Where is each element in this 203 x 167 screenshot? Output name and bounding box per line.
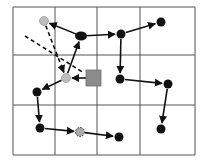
edge-arrow [42, 80, 61, 89]
black-node [157, 18, 166, 27]
edge-arrow [86, 34, 115, 35]
edge-arrow [162, 89, 167, 123]
black-node [116, 75, 125, 84]
black-node [164, 80, 173, 89]
edges [37, 23, 167, 136]
square-node [86, 70, 101, 86]
black-node [117, 30, 126, 39]
black-node [36, 124, 45, 133]
gray-node [62, 74, 71, 83]
black-node [33, 88, 42, 97]
gray-node [40, 17, 49, 26]
edge-arrow [45, 128, 74, 131]
path-diagram [0, 0, 203, 167]
black-node [115, 133, 124, 142]
black-node [75, 32, 87, 41]
edge-arrow [126, 24, 155, 33]
edge-arrow [68, 42, 79, 74]
dotted-node [76, 128, 85, 137]
edge-arrow [85, 133, 113, 137]
edge-arrow [37, 97, 39, 122]
black-node [157, 125, 166, 134]
edge-arrow [50, 23, 77, 34]
edge-arrow [120, 39, 121, 73]
edge-arrow [125, 80, 162, 84]
